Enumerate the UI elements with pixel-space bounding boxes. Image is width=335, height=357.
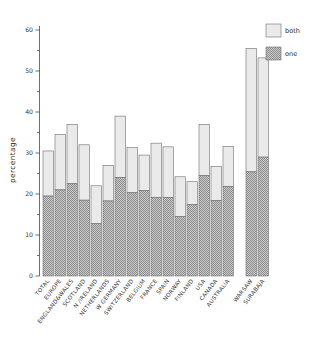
y-tick-label: 10	[25, 231, 33, 238]
bar-segment-both	[43, 151, 53, 196]
bar-segment-both	[187, 182, 197, 205]
bar-segment-both	[103, 165, 113, 201]
bar-segment-both	[163, 147, 173, 197]
bar-segment-both	[199, 124, 209, 175]
bar-segment-one	[199, 176, 209, 276]
bar-group	[187, 182, 197, 276]
bar-segment-one	[91, 224, 101, 276]
bar-segment-both	[79, 145, 89, 200]
bar-segment-both	[115, 116, 125, 178]
bar-group	[115, 116, 125, 276]
bar-group	[91, 186, 101, 276]
bar-segment-both	[139, 155, 149, 191]
y-tick-label: 60	[25, 26, 33, 33]
bar-segment-both	[246, 48, 256, 171]
y-tick-label: 40	[25, 108, 33, 115]
y-tick-label: 50	[25, 67, 33, 74]
bar-group	[246, 48, 256, 276]
bar-segment-one	[115, 178, 125, 276]
bar-segment-one	[211, 201, 221, 276]
y-axis-title: percentage	[8, 137, 17, 183]
bar-group	[103, 165, 113, 276]
y-tick-label: 30	[25, 149, 33, 156]
bar-segment-both	[55, 135, 65, 190]
bar-group	[127, 148, 137, 276]
bar-segment-one	[79, 200, 89, 276]
bar-group	[175, 177, 185, 276]
chart-container: 0102030405060 percentage TOTALEUROPEENGL…	[0, 0, 335, 357]
bar-segment-one	[187, 205, 197, 276]
bar-segment-one	[139, 191, 149, 276]
y-tick-label: 0	[29, 272, 33, 279]
bar-segment-one	[258, 157, 268, 276]
bar-segment-one	[55, 190, 65, 276]
bar-group	[211, 167, 221, 276]
bar-group	[258, 58, 268, 276]
legend-label-both: both	[285, 27, 300, 35]
y-tick-label: 20	[25, 190, 33, 197]
legend-swatch-one	[266, 47, 281, 60]
bar-group	[139, 155, 149, 276]
bar-group	[55, 135, 65, 276]
bar-segment-one	[43, 196, 53, 276]
bar-segment-one	[127, 193, 137, 276]
bar-group	[199, 124, 209, 276]
bar-group	[151, 143, 161, 276]
bar-segment-one	[246, 172, 256, 276]
bar-segment-both	[127, 148, 137, 193]
bar-group	[67, 124, 77, 276]
bar-segment-both	[211, 167, 221, 201]
stacked-bar-chart: 0102030405060 percentage TOTALEUROPEENGL…	[0, 0, 335, 357]
bar-segment-both	[223, 146, 233, 186]
bar-segment-one	[103, 201, 113, 276]
bar-segment-one	[67, 184, 77, 276]
bar-group	[43, 151, 53, 276]
bar-segment-both	[258, 58, 268, 157]
bar-segment-both	[91, 186, 101, 224]
bar-segment-one	[163, 197, 173, 276]
bar-segment-one	[151, 197, 161, 276]
bar-segment-both	[67, 124, 77, 183]
legend-swatch-both	[266, 24, 281, 37]
bar-segment-both	[151, 143, 161, 197]
bar-group	[163, 147, 173, 276]
bar-segment-both	[175, 177, 185, 217]
bar-segment-one	[223, 187, 233, 276]
bar-segment-one	[175, 217, 185, 276]
legend-label-one: one	[285, 50, 297, 58]
bar-group	[79, 145, 89, 276]
bar-group	[223, 146, 233, 276]
